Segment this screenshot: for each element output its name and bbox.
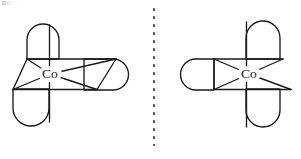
metal-label-right: Co: [241, 66, 257, 81]
cobalt-isomer-diagram: Co Co: [0, 0, 301, 159]
chelate-lobe-bottom-left: [13, 89, 49, 126]
figure-canvas: Co Co: [0, 0, 301, 159]
cobalt-complex-left: Co: [13, 24, 128, 126]
metal-label-left: Co: [42, 66, 58, 81]
chelate-lobe-left: [181, 59, 214, 90]
chelate-lobe-top-right: [246, 21, 280, 59]
chelate-lobe-top-left: [27, 24, 59, 59]
cobalt-complex-right: Co: [181, 21, 291, 127]
chelate-lobe-bottom-right: [246, 89, 280, 127]
